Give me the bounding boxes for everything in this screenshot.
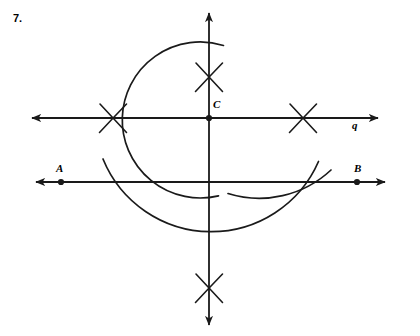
point-a-label: A: [56, 162, 63, 174]
line-q-label: q: [352, 119, 358, 131]
arc-lower-right: [228, 170, 331, 198]
figure-container: 7.: [0, 0, 420, 336]
point-c-dot: [206, 115, 212, 121]
point-c-label: C: [213, 98, 220, 110]
point-b-dot: [354, 179, 360, 185]
point-a-dot: [58, 179, 64, 185]
point-b-label: B: [354, 162, 361, 174]
